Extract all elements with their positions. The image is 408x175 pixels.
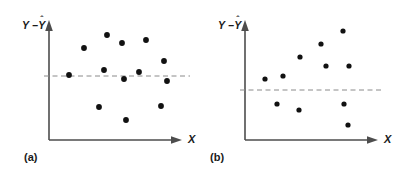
data-point <box>262 76 267 81</box>
panel-caption-b: (b) <box>210 152 224 163</box>
data-point <box>274 101 279 106</box>
data-point <box>345 122 350 127</box>
data-point <box>340 28 345 33</box>
panel-a: Y –ˆY <box>0 0 204 175</box>
data-point <box>297 54 302 59</box>
x-axis-label-panel-b: X <box>384 134 391 145</box>
data-point <box>318 41 323 46</box>
y-hat-group-a: ˆY <box>38 20 45 31</box>
data-point <box>296 107 301 112</box>
data-point <box>96 104 102 110</box>
y-axis-arrowhead-a <box>45 20 53 31</box>
data-point <box>164 78 170 84</box>
data-point <box>81 45 87 51</box>
panel-b: Y –ˆY <box>204 0 408 175</box>
data-point <box>346 63 351 68</box>
data-point <box>280 73 285 78</box>
data-point <box>136 69 142 75</box>
y-axis-label-panel-b: Y –ˆY <box>218 20 241 31</box>
y-axis-label-panel-a: Y –ˆY <box>22 20 45 31</box>
data-points-b <box>262 28 351 127</box>
data-point <box>123 117 129 123</box>
data-point <box>104 32 110 38</box>
data-point <box>101 67 107 73</box>
data-point <box>323 63 328 68</box>
data-point <box>121 76 127 82</box>
residual-plots-figure: Y –ˆY <box>0 0 408 175</box>
data-point <box>66 72 72 78</box>
x-axis-label-panel-a: X <box>188 134 195 145</box>
y-hat-caret-b: ˆ <box>236 15 239 24</box>
y-hat-caret-a: ˆ <box>40 15 43 24</box>
data-point <box>119 40 125 46</box>
data-points-a <box>66 32 170 123</box>
panel-caption-a: (a) <box>24 152 37 163</box>
x-axis-arrowhead-b <box>367 136 378 144</box>
x-axis-arrowhead-a <box>171 136 182 144</box>
data-point <box>158 103 164 109</box>
y-axis-arrowhead-b <box>241 20 249 31</box>
y-axis-label-text-b: Y – <box>218 19 234 31</box>
data-point <box>143 37 149 43</box>
y-axis-label-text-a: Y – <box>22 19 38 31</box>
data-point <box>341 101 346 106</box>
y-hat-group-b: ˆY <box>234 20 241 31</box>
data-point <box>161 58 167 64</box>
